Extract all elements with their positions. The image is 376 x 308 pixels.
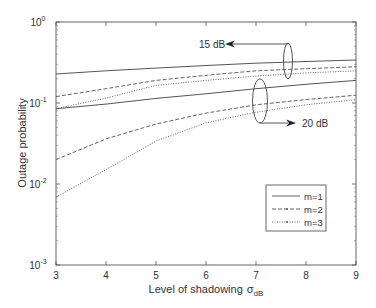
outage-probability-chart: 345678910010-110-210-3 15 dB 20 dB m=1 m… bbox=[0, 0, 376, 308]
x-tick-label: 4 bbox=[103, 270, 109, 281]
legend-label-m3: m=3 bbox=[304, 217, 323, 228]
legend-label-m2: m=2 bbox=[304, 204, 323, 215]
x-axis-label-subscript: dB bbox=[254, 289, 264, 298]
annotation-15db: 15 dB bbox=[199, 39, 225, 50]
x-tick-label: 9 bbox=[353, 270, 359, 281]
legend: m=1 m=2 m=3 bbox=[266, 185, 326, 231]
series-20db-m3 bbox=[56, 100, 356, 198]
legend-label-m1: m=1 bbox=[304, 191, 323, 202]
series-15db-m1 bbox=[56, 60, 356, 74]
x-tick-label: 3 bbox=[53, 270, 59, 281]
legend-marker-dotted bbox=[286, 221, 288, 223]
x-axis-label: Level of shadowingσdB bbox=[149, 283, 264, 298]
y-tick-label: 10-1 bbox=[29, 96, 46, 109]
x-tick-label: 8 bbox=[303, 270, 309, 281]
ellipse-15db bbox=[284, 43, 293, 79]
legend-marker-dashed bbox=[286, 208, 288, 210]
x-tick-label: 7 bbox=[253, 270, 259, 281]
annotation-20db: 20 dB bbox=[302, 118, 328, 129]
series-20db-m1 bbox=[56, 80, 356, 108]
y-tick-label: 100 bbox=[30, 15, 45, 28]
y-tick-label: 10-2 bbox=[29, 177, 46, 190]
axes: 345678910010-110-210-3 bbox=[29, 15, 359, 281]
y-axis-label: Outage probability bbox=[16, 98, 28, 188]
x-axis-label-text: Level of shadowing bbox=[149, 283, 243, 295]
x-tick-label: 5 bbox=[153, 270, 159, 281]
x-tick-label: 6 bbox=[203, 270, 209, 281]
ellipse-20db bbox=[253, 79, 268, 123]
y-tick-label: 10-3 bbox=[29, 258, 46, 271]
